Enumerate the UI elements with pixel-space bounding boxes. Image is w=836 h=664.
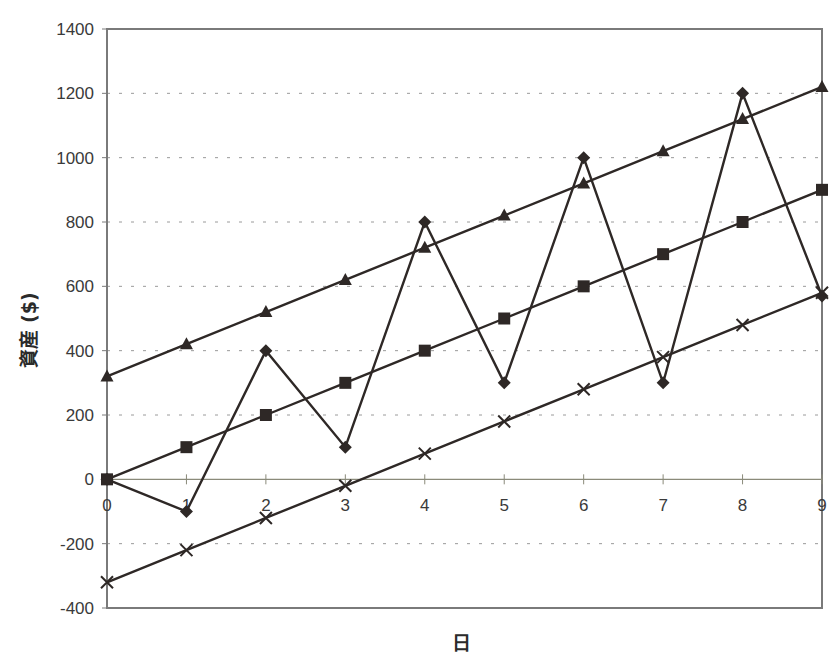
y-tick-label: 1200 xyxy=(56,84,94,103)
triangle-marker-icon xyxy=(816,80,829,92)
x-tick-label: 9 xyxy=(817,496,826,515)
x-tick-label: 5 xyxy=(499,496,508,515)
x-tick-label: 0 xyxy=(102,496,111,515)
x-axis-tick-labels: 0123456789 xyxy=(102,496,826,515)
x-tick-label: 4 xyxy=(420,496,429,515)
diamond-marker-icon xyxy=(418,216,431,229)
data-series xyxy=(101,80,829,588)
series-line xyxy=(107,190,822,480)
x-tick-label: 7 xyxy=(658,496,667,515)
x-axis-title: 日 xyxy=(452,632,471,654)
square-marker-icon xyxy=(260,409,272,421)
diamond-marker-icon xyxy=(498,376,511,389)
square-marker-icon xyxy=(339,377,351,389)
series-line xyxy=(107,93,822,511)
x-marker-icon xyxy=(657,351,669,363)
plot-border xyxy=(107,29,822,608)
x-tick-label: 2 xyxy=(261,496,270,515)
line-chart: -400-2000200400600800100012001400 012345… xyxy=(0,0,836,664)
y-axis-title: 資産 ($) xyxy=(18,292,40,367)
series-line xyxy=(107,293,822,583)
x-tick-label: 3 xyxy=(341,496,350,515)
square-marker-icon xyxy=(180,441,192,453)
y-tick-label: 1000 xyxy=(56,149,94,168)
y-axis-tick-labels: -400-2000200400600800100012001400 xyxy=(56,20,107,618)
x-marker-icon xyxy=(180,544,192,556)
y-tick-label: 600 xyxy=(66,277,94,296)
square-marker-icon xyxy=(419,345,431,357)
gridlines xyxy=(107,93,822,543)
square-marker-icon xyxy=(657,248,669,260)
x-axis-zero-line xyxy=(107,474,822,484)
series-line xyxy=(107,87,822,377)
square-marker-icon xyxy=(816,184,828,196)
y-tick-label: -400 xyxy=(60,599,94,618)
diamond-marker-icon xyxy=(657,376,670,389)
y-tick-label: 200 xyxy=(66,406,94,425)
diamond-marker-icon xyxy=(577,151,590,164)
square-marker-icon xyxy=(498,313,510,325)
y-tick-label: 1400 xyxy=(56,20,94,39)
square-marker-icon xyxy=(737,216,749,228)
x-tick-label: 6 xyxy=(579,496,588,515)
y-tick-label: 400 xyxy=(66,342,94,361)
x-marker-icon xyxy=(737,319,749,331)
x-marker-icon xyxy=(419,448,431,460)
square-marker-icon xyxy=(578,280,590,292)
diamond-marker-icon xyxy=(736,87,749,100)
x-marker-icon xyxy=(578,383,590,395)
x-marker-icon xyxy=(498,415,510,427)
y-tick-label: 0 xyxy=(85,470,94,489)
series-diamond xyxy=(101,87,829,518)
y-tick-label: -200 xyxy=(60,535,94,554)
y-tick-label: 800 xyxy=(66,213,94,232)
plot-frame xyxy=(107,29,822,608)
x-tick-label: 8 xyxy=(738,496,747,515)
